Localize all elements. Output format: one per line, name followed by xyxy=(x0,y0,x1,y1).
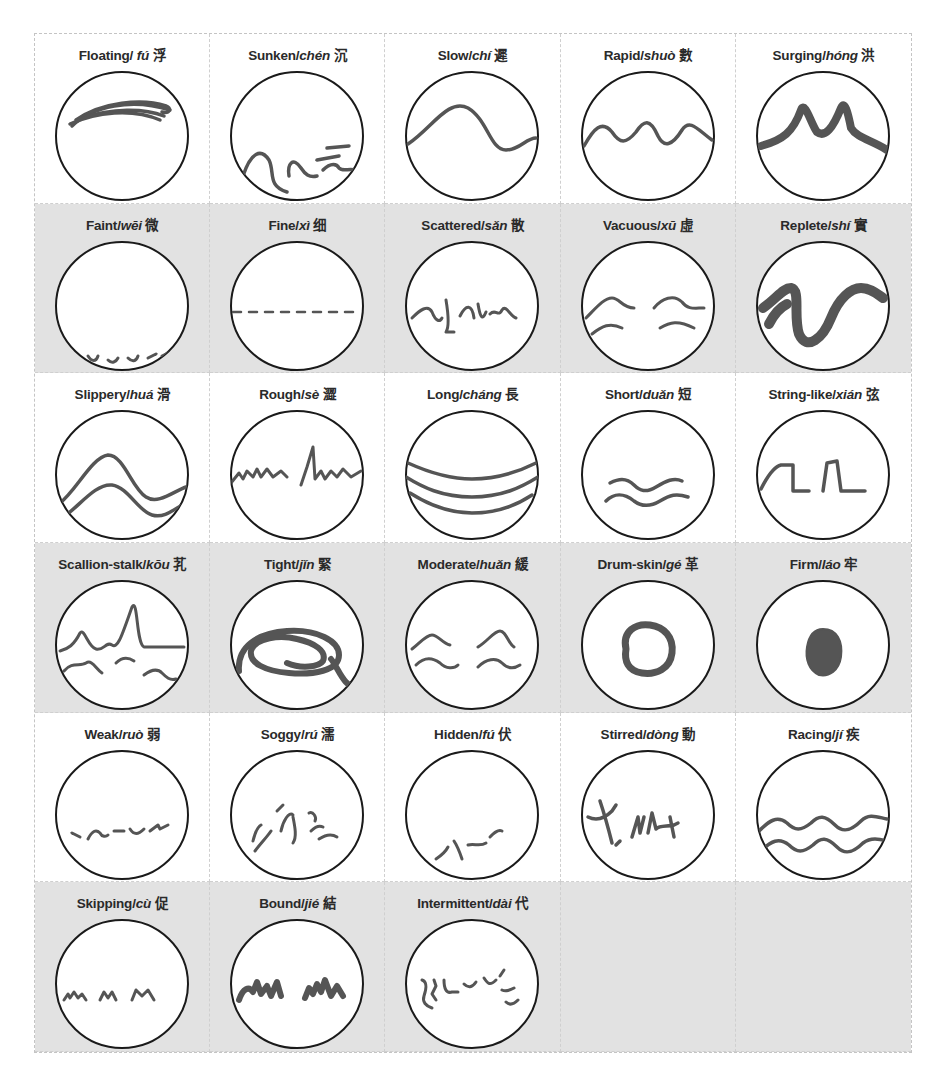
pulse-label: Slippery/huá 滑 xyxy=(75,383,170,403)
pulse-circle-drawing xyxy=(52,916,192,1052)
pulse-pinyin: wēi xyxy=(121,218,142,233)
pulse-wave-icon xyxy=(52,916,192,1052)
pulse-label: Replete/shí 實 xyxy=(780,214,866,234)
pulse-english-name: Short/ xyxy=(605,387,643,402)
pulse-chinese-char: 濡 xyxy=(321,727,334,742)
pulse-cell-surging: Surging/hóng 洪 xyxy=(736,34,911,204)
pulse-label: Long/cháng 長 xyxy=(427,383,518,403)
pulse-cell-moderate: Moderate/huǎn 緩 xyxy=(385,543,560,713)
pulse-wave-icon xyxy=(52,407,192,543)
pulse-wave-icon xyxy=(227,916,367,1052)
pulse-wave-icon xyxy=(753,68,893,204)
pulse-wave-icon xyxy=(753,577,893,713)
pulse-cell-skipping: Skipping/cù 促 xyxy=(35,882,210,1052)
pulse-pinyin: jié xyxy=(305,896,319,911)
pulse-cell-tight: Tight/jǐn 緊 xyxy=(210,543,385,713)
pulse-cell-slippery: Slippery/huá 滑 xyxy=(35,373,210,543)
pulse-label: Rapid/shuò 數 xyxy=(604,44,692,64)
pulse-chinese-char: 短 xyxy=(678,387,691,402)
pulse-pinyin: huǎn xyxy=(480,557,511,572)
pulse-english-name: Hidden/ xyxy=(434,727,482,742)
pulse-pinyin: dòng xyxy=(646,727,678,742)
pulse-wave-icon xyxy=(578,68,718,204)
pulse-english-name: Weak/ xyxy=(84,727,122,742)
pulse-cell-rapid: Rapid/shuò 數 xyxy=(561,34,736,204)
pulse-wave-icon xyxy=(227,747,367,883)
pulse-wave-icon xyxy=(227,68,367,204)
pulse-english-name: Replete/ xyxy=(780,218,831,233)
pulse-label: Moderate/huǎn 緩 xyxy=(418,553,528,573)
pulse-label: Soggy/rú 濡 xyxy=(261,723,334,743)
pulse-circle-drawing xyxy=(52,577,192,713)
pulse-circle-drawing xyxy=(753,407,893,543)
pulse-pinyin: hóng xyxy=(826,48,858,63)
pulse-circle-drawing xyxy=(578,407,718,543)
pulse-cell-stirred: Stirred/dòng 動 xyxy=(561,713,736,883)
pulse-wave-icon xyxy=(578,407,718,543)
pulse-circle-drawing xyxy=(227,407,367,543)
pulse-cell-racing: Racing/jí 疾 xyxy=(736,713,911,883)
pulse-circle-drawing xyxy=(753,747,893,883)
pulse-wave-icon xyxy=(402,916,542,1052)
pulse-english-name: Bound/ xyxy=(259,896,304,911)
pulse-english-name: Stirred/ xyxy=(601,727,647,742)
pulse-english-name: Vacuous/ xyxy=(603,218,661,233)
pulse-circle-drawing xyxy=(578,238,718,374)
pulse-chinese-char: 動 xyxy=(682,727,695,742)
pulse-cell-soggy: Soggy/rú 濡 xyxy=(210,713,385,883)
pulse-cell-hidden: Hidden/fú 伏 xyxy=(385,713,560,883)
pulse-cell-bound: Bound/jié 結 xyxy=(210,882,385,1052)
pulse-circle-drawing xyxy=(227,747,367,883)
pulse-label: Drum-skin/gé 革 xyxy=(598,553,698,573)
pulse-pinyin: chí xyxy=(472,48,491,63)
pulse-label: Scallion-stalk/kōu 芤 xyxy=(58,553,186,573)
pulse-label: Bound/jié 結 xyxy=(259,892,335,912)
pulse-pinyin: xū xyxy=(661,218,676,233)
pulse-label: Vacuous/xū 虛 xyxy=(603,214,692,234)
pulse-chinese-char: 數 xyxy=(679,48,692,63)
pulse-label: Racing/jí 疾 xyxy=(788,723,859,743)
pulse-wave-icon xyxy=(52,238,192,374)
pulse-label: String-like/xián 弦 xyxy=(768,383,878,403)
pulse-label: Tight/jǐn 緊 xyxy=(264,553,331,573)
pulse-chinese-char: 虛 xyxy=(680,218,693,233)
pulse-chinese-char: 革 xyxy=(685,557,698,572)
pulse-english-name: Fine/ xyxy=(268,218,299,233)
pulse-wave-icon xyxy=(753,747,893,883)
pulse-cell-scallion: Scallion-stalk/kōu 芤 xyxy=(35,543,210,713)
pulse-english-name: String-like/ xyxy=(768,387,835,402)
pulse-pinyin: rú xyxy=(304,727,317,742)
pulse-wave-icon xyxy=(227,577,367,713)
pulse-pinyin: sè xyxy=(304,387,319,402)
pulse-english-name: Floating/ xyxy=(79,48,137,63)
pulse-english-name: Intermittent/ xyxy=(417,896,492,911)
pulse-chinese-char: 沉 xyxy=(334,48,347,63)
pulse-chinese-char: 長 xyxy=(505,387,518,402)
pulse-label: Faint/wēi 微 xyxy=(86,214,158,234)
pulse-label: Sunken/chén 沉 xyxy=(248,44,346,64)
pulse-circle-drawing xyxy=(402,577,542,713)
pulse-chinese-char: 洪 xyxy=(861,48,874,63)
pulse-diagram-grid: Floating/ fú 浮 Sunken/chén 沉 Slow/chí 遲 … xyxy=(34,33,912,1053)
pulse-circle-drawing xyxy=(227,238,367,374)
pulse-pinyin: shí xyxy=(831,218,850,233)
pulse-english-name: Drum-skin/ xyxy=(598,557,667,572)
pulse-wave-icon xyxy=(227,407,367,543)
pulse-wave-icon xyxy=(52,577,192,713)
pulse-english-name: Tight/ xyxy=(264,557,299,572)
pulse-pinyin: jǐn xyxy=(299,557,314,572)
pulse-cell-floating: Floating/ fú 浮 xyxy=(35,34,210,204)
pulse-chinese-char: 滑 xyxy=(157,387,170,402)
pulse-cell-weak: Weak/ruò 弱 xyxy=(35,713,210,883)
pulse-cell-drum: Drum-skin/gé 革 xyxy=(561,543,736,713)
pulse-pinyin: huá xyxy=(130,387,153,402)
pulse-chinese-char: 微 xyxy=(145,218,158,233)
pulse-english-name: Faint/ xyxy=(86,218,121,233)
pulse-circle-drawing xyxy=(753,238,893,374)
pulse-chinese-char: 促 xyxy=(155,896,168,911)
pulse-circle-drawing xyxy=(402,916,542,1052)
pulse-chinese-char: 散 xyxy=(511,218,524,233)
pulse-label: Slow/chí 遲 xyxy=(438,44,508,64)
pulse-wave-icon xyxy=(753,407,893,543)
pulse-label: Rough/sè 澀 xyxy=(259,383,335,403)
